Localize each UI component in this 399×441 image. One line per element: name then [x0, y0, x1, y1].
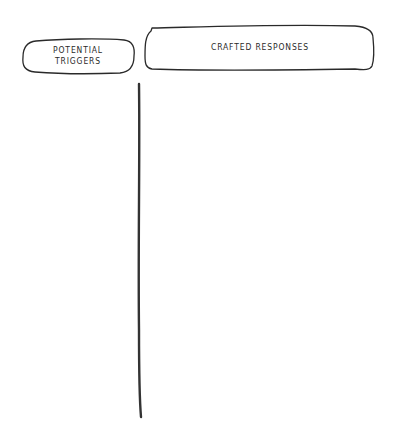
potential-triggers-line2: TRIGGERS: [30, 56, 125, 67]
crafted-responses-header: CRAFTED RESPONSES: [162, 42, 358, 53]
column-divider-line: [139, 84, 141, 417]
potential-triggers-header: POTENTIAL TRIGGERS: [30, 45, 125, 67]
potential-triggers-line1: POTENTIAL: [30, 45, 125, 56]
